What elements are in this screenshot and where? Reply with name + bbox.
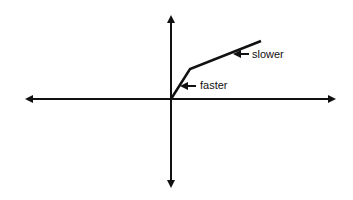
- faster-annotation: faster: [182, 79, 228, 91]
- slower-label: slower: [252, 48, 284, 60]
- diagram: slower faster: [0, 0, 353, 200]
- slower-annotation: slower: [235, 48, 284, 60]
- faster-label: faster: [200, 79, 228, 91]
